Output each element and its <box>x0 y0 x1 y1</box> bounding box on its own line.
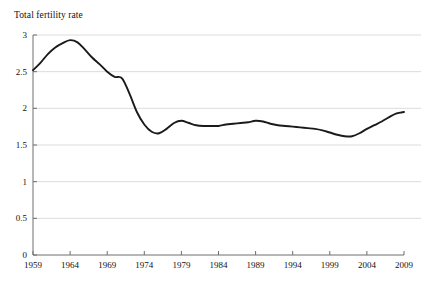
x-tick-label: 2009 <box>384 260 422 270</box>
y-tick-label: 1 <box>3 177 27 187</box>
y-tick-label: 1.5 <box>3 140 27 150</box>
y-tick-label: 2.5 <box>3 67 27 77</box>
y-tick-label: 2 <box>3 103 27 113</box>
y-tick-label: 0.5 <box>3 213 27 223</box>
x-tick-label: 1964 <box>50 260 90 270</box>
x-tick-label: 1974 <box>124 260 164 270</box>
x-tick-label: 1984 <box>199 260 239 270</box>
x-tick-label: 1969 <box>87 260 127 270</box>
chart-svg <box>0 0 422 291</box>
x-tick-label: 1959 <box>13 260 53 270</box>
x-tick-label: 1989 <box>236 260 276 270</box>
data-series-group <box>33 40 404 136</box>
chart-container: Total fertility rate 00.511.522.53 19591… <box>0 0 422 291</box>
gridlines-group <box>33 35 421 218</box>
x-tick-label: 1979 <box>161 260 201 270</box>
y-tick-label: 3 <box>3 30 27 40</box>
plot-area: 00.511.522.53 19591964196919741979198419… <box>0 0 422 291</box>
x-tick-label: 1994 <box>273 260 313 270</box>
series-line-total-fertility-rate <box>33 40 404 136</box>
x-tick-label: 1999 <box>310 260 350 270</box>
y-tick-label: 0 <box>3 250 27 260</box>
x-tick-marks-group <box>33 251 404 255</box>
x-tick-label: 2004 <box>347 260 387 270</box>
